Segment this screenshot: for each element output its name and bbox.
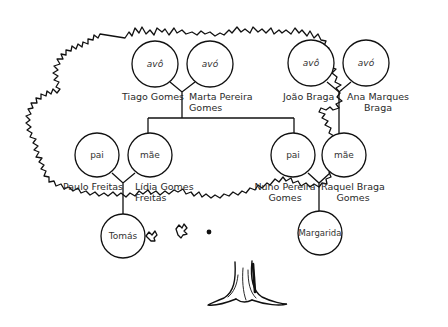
- name-grandmother-right-line1: Ana Marques: [347, 91, 409, 102]
- role-grandmother-left: avó: [202, 59, 218, 69]
- name-child-right: Margarida: [299, 228, 342, 238]
- name-father-right-line2: Gomes: [268, 192, 301, 203]
- name-grandmother-right-line2: Braga: [364, 102, 392, 113]
- name-grandmother-left-line1: Marta Pereira: [189, 91, 253, 102]
- name-grandmother-left-line2: Gomes: [189, 102, 222, 113]
- role-grandfather-left: avô: [147, 59, 163, 69]
- name-child-left: Tomás: [109, 231, 137, 241]
- role-grandmother-right: avó: [358, 58, 374, 68]
- acorn-dot: [207, 230, 212, 235]
- name-grandfather-left: Tiago Gomes: [122, 91, 184, 102]
- role-mother-right: mãe: [334, 150, 354, 160]
- role-mother-left: mãe: [140, 150, 160, 160]
- family-tree-illustration: [0, 0, 448, 327]
- name-mother-left-line2: Freitas: [135, 192, 166, 203]
- name-mother-right-line2: Gomes: [336, 192, 369, 203]
- name-mother-right-line1: Raquel Braga: [321, 181, 385, 192]
- role-grandfather-right: avô: [303, 58, 319, 68]
- role-father-left: pai: [90, 150, 104, 160]
- tree-trunk: [208, 261, 287, 305]
- name-grandfather-right: João Braga: [283, 91, 334, 102]
- name-father-right-line1: Nuno Pereira: [254, 181, 315, 192]
- name-father-left: Paulo Freitas: [63, 181, 123, 192]
- name-mother-left-line1: Lídia Gomes: [135, 181, 194, 192]
- role-father-right: pai: [286, 150, 300, 160]
